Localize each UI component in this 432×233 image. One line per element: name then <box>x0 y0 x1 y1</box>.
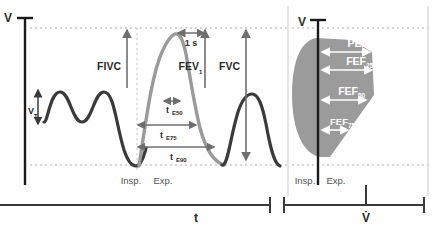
fef50-label: FEF <box>338 85 358 97</box>
left-phase-insp-label: Insp. <box>121 175 142 186</box>
pef-label: PEF <box>348 37 369 49</box>
figure-canvas: V V T FIVC FEV 1 FVC 1 s t E50 t E75 <box>0 0 432 233</box>
fef75-label: FEF <box>330 116 348 127</box>
tidal-volume-sub: T <box>34 113 38 119</box>
fef75-sub: 75 <box>348 122 356 129</box>
right-x-axis-label: V̇ <box>362 210 370 225</box>
te75-sub: E75 <box>166 135 177 141</box>
fvc-label: FVC <box>219 60 240 72</box>
left-y-axis-label: V <box>4 11 12 25</box>
left-phase-exp-label: Exp. <box>153 175 172 186</box>
figure-background <box>0 0 432 233</box>
left-x-axis-label: t <box>194 211 198 225</box>
fef25-sub: 25 <box>366 62 374 69</box>
fef25-label: FEF <box>346 55 366 67</box>
one-second-label: 1 s <box>185 38 198 48</box>
fivc-label: FIVC <box>97 60 121 72</box>
te75-label: t <box>160 130 163 140</box>
te90-label: t <box>170 152 173 162</box>
spirometry-figure: V V T FIVC FEV 1 FVC 1 s t E50 t E75 <box>0 0 432 233</box>
right-phase-insp-label: Insp. <box>295 175 316 186</box>
te90-sub: E90 <box>176 157 187 163</box>
fef50-sub: 50 <box>358 92 366 99</box>
right-y-axis-label: V <box>298 15 306 29</box>
right-phase-exp-label: Exp. <box>326 175 345 186</box>
te50-sub: E50 <box>172 110 183 116</box>
te50-label: t <box>166 105 169 115</box>
fev1-label: FEV <box>179 60 199 72</box>
